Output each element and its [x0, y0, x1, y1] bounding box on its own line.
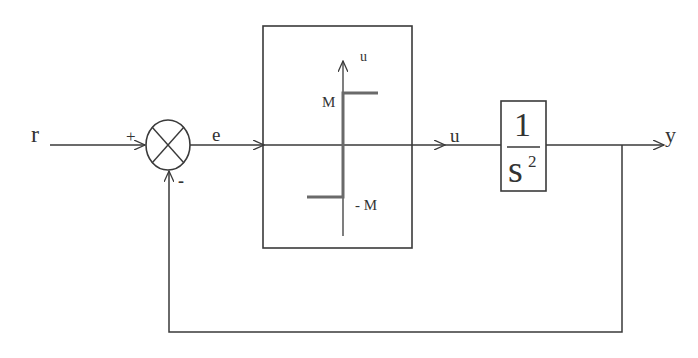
control-label-u: u [450, 126, 460, 145]
output-label-y: y [665, 124, 676, 146]
tf-numerator: 1 [514, 108, 531, 142]
relay-upper-level-M: M [322, 95, 335, 110]
relay-axis-label-u: u [360, 50, 367, 64]
relay-nonlinearity-block [263, 26, 412, 248]
feedback-path-line [169, 145, 622, 332]
relay-lower-level-minus-M: - M [355, 198, 377, 213]
minus-sign: - [178, 172, 184, 190]
tf-exponent: 2 [528, 153, 537, 170]
block-diagram-canvas [0, 0, 698, 358]
tf-denominator: s [508, 150, 523, 188]
plus-sign: + [126, 128, 136, 145]
error-label-e: e [212, 125, 220, 144]
input-label-r: r [31, 122, 39, 146]
summing-junction [146, 120, 190, 170]
